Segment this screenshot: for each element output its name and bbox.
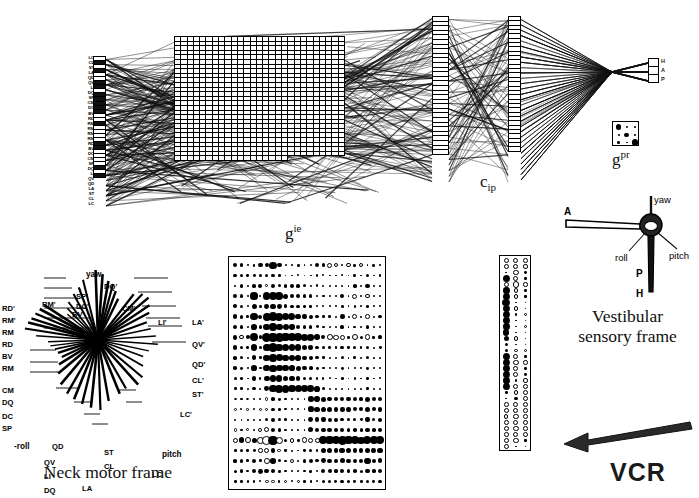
hinton-weight-dot [234,449,237,452]
cip-layer-label: cip [480,172,496,193]
hinton-weight-dot [282,365,288,371]
hinton-weight-dot [505,272,507,274]
hinton-weight-dot [314,334,320,340]
hinton-weight-dot [334,480,337,483]
hinton-weight-dot [289,376,294,381]
hinton-weight-dot [316,449,319,452]
hinton-weight-dot [290,438,295,443]
hinton-weight-dot [378,469,382,473]
hinton-weight-dot [360,428,363,431]
hinton-weight-dot [504,438,509,443]
hinton-weight-dot [504,444,509,449]
hinton-weight-dot [271,480,275,484]
hinton-weight-dot [285,275,287,277]
hinton-weight-dot [271,284,275,288]
hinton-weight-dot [353,407,357,411]
hinton-weight-dot [626,126,628,128]
hinton-weight-dot [515,379,517,381]
hinton-weight-dot [360,378,362,380]
hinton-weight-dot [265,408,269,412]
hinton-weight-dot [240,469,244,473]
hinton-weight-dot [329,377,331,379]
hinton-weight-dot [252,469,256,473]
hinton-weight-dot [302,314,306,318]
hinton-weight-dot [233,314,237,318]
hinton-weight-dot [322,274,324,276]
hinton-weight-dot [525,302,527,304]
hinton-weight-dot [523,360,528,365]
hinton-weight-dot [297,450,299,452]
hinton-weight-dot [322,285,324,287]
hinton-weight-dot [247,357,249,359]
hinton-weight-dot [373,326,375,328]
output-unit-label: P [661,75,665,84]
input-unit-column [93,56,106,177]
hinton-weight-dot [334,428,338,432]
output-unit-label: H [661,57,665,66]
hinton-weight-dot [340,397,344,401]
hinton-weight-dot [246,470,249,473]
hinton-weight-dot [277,449,281,453]
hinton-weight-dot [278,470,281,473]
hinton-weight-dot [234,419,236,421]
hinton-weight-dot [373,305,375,307]
hinton-weight-dot [241,419,243,421]
hinton-weight-dot [513,426,519,432]
neck-muscle-label: ST [104,448,114,457]
neck-muscle-label: RD' [2,304,15,313]
hinton-weight-dot [240,387,243,390]
hinton-weight-dot [246,459,249,462]
hinton-weight-dot [291,450,293,452]
hinton-weight-dot [252,387,255,390]
hinton-weight-dot [290,294,294,298]
hinton-weight-dot [304,408,306,410]
hinton-weight-dot [618,134,620,136]
hinton-weight-dot [513,264,518,269]
hinton-weight-dot [373,285,375,287]
gie-superscript: ie [294,222,302,234]
hinton-weight-dot [513,360,518,365]
hinton-weight-dot [234,470,237,473]
hinton-weight-dot [525,320,527,322]
hinton-weight-dot [304,429,306,431]
hinton-weight-dot [327,397,332,402]
hinton-weight-dot [234,428,237,431]
hinton-weight-dot [525,332,527,334]
hinton-weight-dot [504,408,509,413]
hinton-weight-dot [303,449,305,451]
hinton-weight-dot [233,356,237,360]
neck-muscle-label: BV [2,352,13,361]
hinton-weight-dot [276,437,283,444]
hinton-weight-dot [365,294,369,298]
hinton-weight-dot [284,449,286,451]
hinton-weight-dot [348,357,350,359]
neck-muscle-label: BV' [72,310,84,319]
hinton-weight-dot [335,388,337,390]
hinton-weight-dot [291,419,293,421]
hinton-weight-dot [322,346,325,349]
hinton-weight-dot [524,349,527,352]
hinton-weight-dot [264,427,269,432]
hinton-weight-dot [284,429,287,432]
hinton-weight-dot [233,438,238,443]
hinton-weight-dot [353,264,356,267]
hinton-weight-dot [367,264,369,266]
hinton-weight-dot [247,285,249,287]
hinton-weight-dot [240,315,244,319]
hinton-weight-dot [245,437,251,443]
hinton-weight-dot [321,469,325,473]
hinton-weight-dot [303,470,305,472]
hinton-weight-dot [290,284,294,288]
hinton-weight-dot [348,285,350,287]
hinton-weight-dot [505,349,508,352]
hinton-weight-dot [278,459,281,462]
hinton-weight-dot [308,345,313,350]
hinton-weight-dot [259,388,261,390]
hinton-weight-dot [372,336,375,339]
hinton-weight-dot [297,274,299,276]
vestibular-frame-title-line2: sensory frame [560,326,695,347]
hinton-weight-dot [523,258,528,263]
hinton-weight-dot [321,417,325,421]
hinton-weight-dot [278,284,281,287]
neck-muscle-label: RM [2,328,14,337]
